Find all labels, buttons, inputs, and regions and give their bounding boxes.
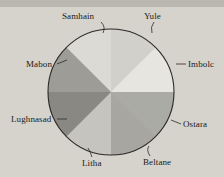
wheel-of-the-year-figure: Samhain Yule Imbolc Ostara Beltane Litha… <box>0 0 224 177</box>
pie-label-ostara: Ostara <box>183 119 207 129</box>
pie-chart-svg <box>0 0 224 177</box>
pie-label-yule: Yule <box>144 11 161 21</box>
pie-label-lughnasad: Lughnasad <box>11 114 51 124</box>
pie-label-mabon: Mabon <box>26 59 52 69</box>
pie-label-litha: Litha <box>82 158 102 168</box>
pie-label-beltane: Beltane <box>143 157 171 167</box>
pie-label-imbolc: Imbolc <box>188 59 214 69</box>
pie-label-samhain: Samhain <box>62 11 94 21</box>
leader-line-beltane <box>148 146 150 156</box>
leader-line-yule <box>151 22 154 33</box>
leader-line-ostara <box>171 120 181 124</box>
